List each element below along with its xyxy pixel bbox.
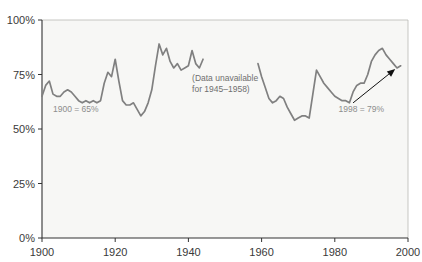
- y-axis-ticks: 0%25%50%75%100%: [7, 14, 42, 244]
- x-tick-label: 1900: [30, 246, 54, 258]
- y-tick-label: 100%: [7, 14, 35, 26]
- annotation-gap-note-line2: for 1945–1958): [192, 84, 250, 94]
- annotation-gap-note-line1: (Data unavailable: [192, 73, 258, 83]
- annotation-end-value: 1998 = 79%: [338, 104, 384, 114]
- line-chart: 0%25%50%75%100% 190019201940196019802000…: [0, 0, 422, 262]
- y-tick-label: 50%: [13, 123, 35, 135]
- y-tick-label: 0%: [19, 232, 35, 244]
- x-tick-label: 1940: [176, 246, 200, 258]
- y-tick-label: 75%: [13, 69, 35, 81]
- chart-page: 0%25%50%75%100% 190019201940196019802000…: [0, 0, 422, 262]
- plot-background: [42, 20, 408, 238]
- x-tick-label: 1920: [103, 246, 127, 258]
- x-tick-label: 2000: [396, 246, 420, 258]
- y-tick-label: 25%: [13, 178, 35, 190]
- x-axis-ticks: 190019201940196019802000: [30, 238, 420, 258]
- annotation-start-value: 1900 = 65%: [53, 104, 99, 114]
- x-tick-label: 1980: [323, 246, 347, 258]
- x-tick-label: 1960: [249, 246, 273, 258]
